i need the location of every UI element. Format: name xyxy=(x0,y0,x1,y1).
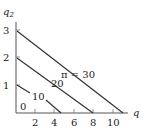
x-axis-label: q xyxy=(133,107,139,118)
y-axis-label: q2 xyxy=(3,6,14,19)
isoprofit-diagram: q2 q 3 2 1 2 4 6 8 10 0 10 20 π = 30 xyxy=(0,0,143,129)
line-pi-10-lower xyxy=(46,100,61,113)
y-tick-label: 2 xyxy=(3,52,9,63)
y-tick-label: 1 xyxy=(3,80,9,91)
x-tick-label: 6 xyxy=(71,117,77,128)
y-tick-label: 3 xyxy=(3,25,9,36)
x-tick-label: 4 xyxy=(51,117,57,128)
line-label-10: 10 xyxy=(32,91,45,102)
line-pi-10-upper xyxy=(17,85,30,93)
x-tick-label: 2 xyxy=(32,117,38,128)
origin-label: 0 xyxy=(20,101,26,112)
x-tick-label: 8 xyxy=(90,117,96,128)
line-label-30: π = 30 xyxy=(61,69,95,80)
x-tick-label: 10 xyxy=(107,117,120,128)
